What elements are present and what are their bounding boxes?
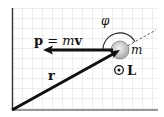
position-r-label: r — [48, 68, 55, 83]
out-of-page-dot-in-circle-icon — [115, 66, 124, 75]
angle-phi-label: φ — [101, 14, 110, 28]
angular-momentum-diagram: p = mv φ m r L — [0, 0, 164, 117]
angular-momentum-L-label: L — [127, 63, 136, 78]
mass-label: m — [131, 43, 142, 57]
grid-background — [12, 8, 158, 110]
momentum-label: p = mv — [34, 33, 83, 48]
